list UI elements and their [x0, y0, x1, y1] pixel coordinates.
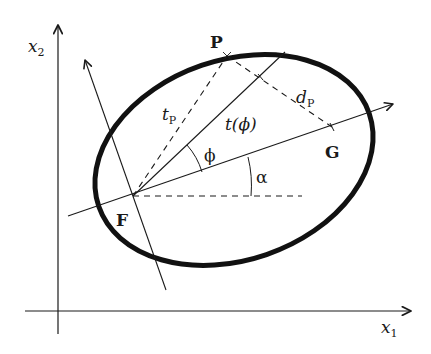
- x1-axis-label: x1: [381, 317, 398, 340]
- ellipse: [66, 19, 402, 301]
- alpha-arc: [248, 157, 251, 196]
- t-phi-label: t(ϕ): [225, 114, 257, 134]
- phi-arc: [187, 145, 202, 172]
- ellipse-focus-diagram: x2 x1 P G F tP t(ϕ) dP ϕ α: [0, 0, 431, 354]
- t-p-label: tP: [162, 104, 177, 127]
- point-g-label: G: [325, 142, 340, 162]
- d-p-label: dP: [296, 87, 315, 110]
- point-p-label: P: [210, 32, 223, 52]
- t-p-line: [133, 56, 227, 196]
- x2-axis-label: x2: [28, 36, 45, 59]
- alpha-angle-label: α: [256, 167, 268, 187]
- focus-f-label: F: [116, 210, 128, 230]
- phi-angle-label: ϕ: [204, 145, 216, 165]
